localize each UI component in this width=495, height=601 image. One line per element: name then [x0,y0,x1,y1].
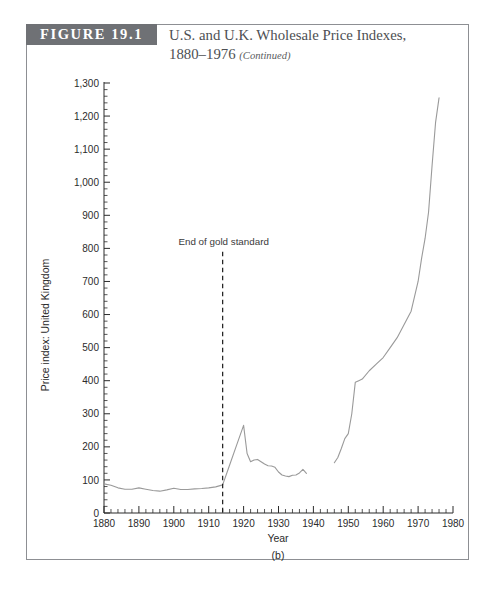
data-series-uk-price-index [104,98,439,491]
x-tick-label: 1960 [372,518,395,529]
x-axis-title: Year [267,532,289,544]
x-tick-label: 1920 [232,518,255,529]
y-tick-label: 300 [82,408,99,419]
y-tick-label: 100 [82,475,99,486]
x-tick-label: 1930 [267,518,290,529]
figure-frame: FIGURE 19.1 U.S. and U.K. Wholesale Pric… [26,24,469,560]
annotation-end-of-gold-standard: End of gold standard [178,236,268,513]
price-index-line-chart: 01002003004005006007008009001,0001,1001,… [27,25,470,561]
y-tick-label: 1,300 [74,78,99,89]
y-tick-label: 400 [82,375,99,386]
y-tick-label: 1,200 [74,111,99,122]
gold-standard-annotation-label: End of gold standard [178,236,268,247]
x-tick-label: 1970 [407,518,430,529]
y-tick-label: 1,100 [74,144,99,155]
series-segment [104,425,306,491]
x-tick-label: 1980 [442,518,465,529]
series-segment [334,98,439,463]
y-tick-label: 700 [82,276,99,287]
x-tick-label: 1910 [198,518,221,529]
y-tick-label: 900 [82,210,99,221]
y-tick-label: 500 [82,342,99,353]
y-tick-label: 200 [82,441,99,452]
x-tick-label: 1950 [337,518,360,529]
chart-plot-area: 01002003004005006007008009001,0001,1001,… [27,25,470,561]
y-axis-title: Price index: United Kingdom [39,259,51,392]
y-tick-label: 0 [93,508,99,519]
x-axis: 1880189019001910192019301940195019601970… [93,506,465,529]
y-tick-label: 1,000 [74,177,99,188]
y-tick-label: 600 [82,309,99,320]
x-tick-label: 1900 [163,518,186,529]
y-axis: 01002003004005006007008009001,0001,1001,… [74,78,110,519]
x-tick-label: 1880 [93,518,116,529]
x-tick-label: 1890 [128,518,151,529]
panel-label: (b) [272,549,285,561]
y-tick-label: 800 [82,243,99,254]
x-tick-label: 1940 [302,518,325,529]
